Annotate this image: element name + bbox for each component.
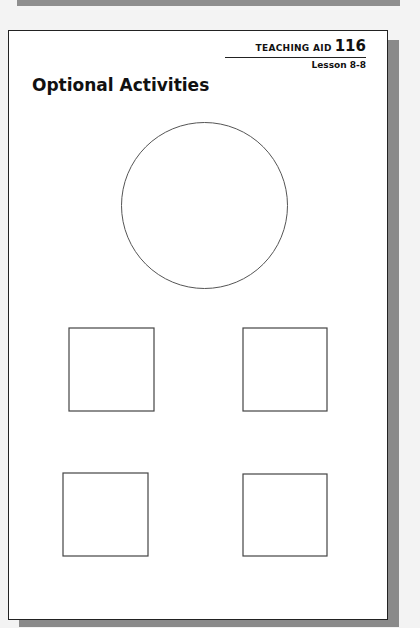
square-shape-top-left [69,328,154,411]
circle-shape [122,123,288,289]
top-shadow-bar [17,0,400,6]
shapes-canvas [9,31,389,621]
teaching-aid-page: TEACHING AID116 Lesson 8-8 Optional Acti… [8,30,388,620]
square-shape-top-right [243,328,327,411]
square-shape-bottom-right [243,474,327,556]
square-shape-bottom-left [63,473,148,556]
